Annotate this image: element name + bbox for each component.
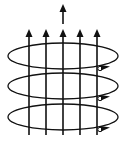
arrowhead-icon [43,29,50,37]
arrowhead-icon [60,29,67,37]
solenoid-field-diagram [0,0,127,144]
field-line-arrowheads [26,29,101,37]
field-lines [29,35,97,135]
current-arrow-icon [98,126,110,132]
arrowhead-icon [94,29,101,37]
current-arrow-icon [98,65,110,71]
center-up-arrow-icon [60,4,67,24]
arrowhead-icon [26,29,33,37]
current-arrow-icon [98,95,110,101]
arrowhead-icon [77,29,84,37]
